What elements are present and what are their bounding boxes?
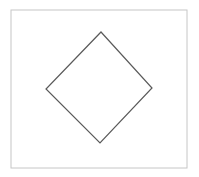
- drawing-canvas: [0, 0, 199, 177]
- figure-svg: [0, 0, 199, 177]
- diamond-outline: [46, 32, 152, 143]
